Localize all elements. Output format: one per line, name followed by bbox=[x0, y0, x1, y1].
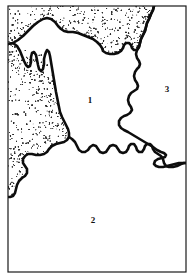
zone-label-3: 3 bbox=[165, 84, 170, 94]
map-figure: 1 2 3 bbox=[0, 0, 194, 278]
zone-label-2: 2 bbox=[91, 215, 96, 225]
zone-label-1: 1 bbox=[88, 95, 93, 105]
map-canvas: 1 2 3 bbox=[0, 0, 194, 278]
